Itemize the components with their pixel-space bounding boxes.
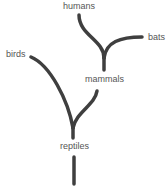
tree-branches — [0, 0, 166, 191]
node-label-reptiles: reptiles — [60, 141, 89, 151]
node-label-bats: bats — [148, 32, 165, 42]
branch-humans — [79, 15, 104, 58]
node-label-humans: humans — [63, 1, 95, 11]
node-label-birds: birds — [6, 49, 26, 59]
branch-birds — [31, 57, 73, 128]
branch-mammals — [73, 91, 97, 128]
node-label-mammals: mammals — [85, 74, 124, 84]
branch-bats — [104, 37, 142, 58]
evolution-tree-diagram: humans bats mammals birds reptiles — [0, 0, 166, 191]
